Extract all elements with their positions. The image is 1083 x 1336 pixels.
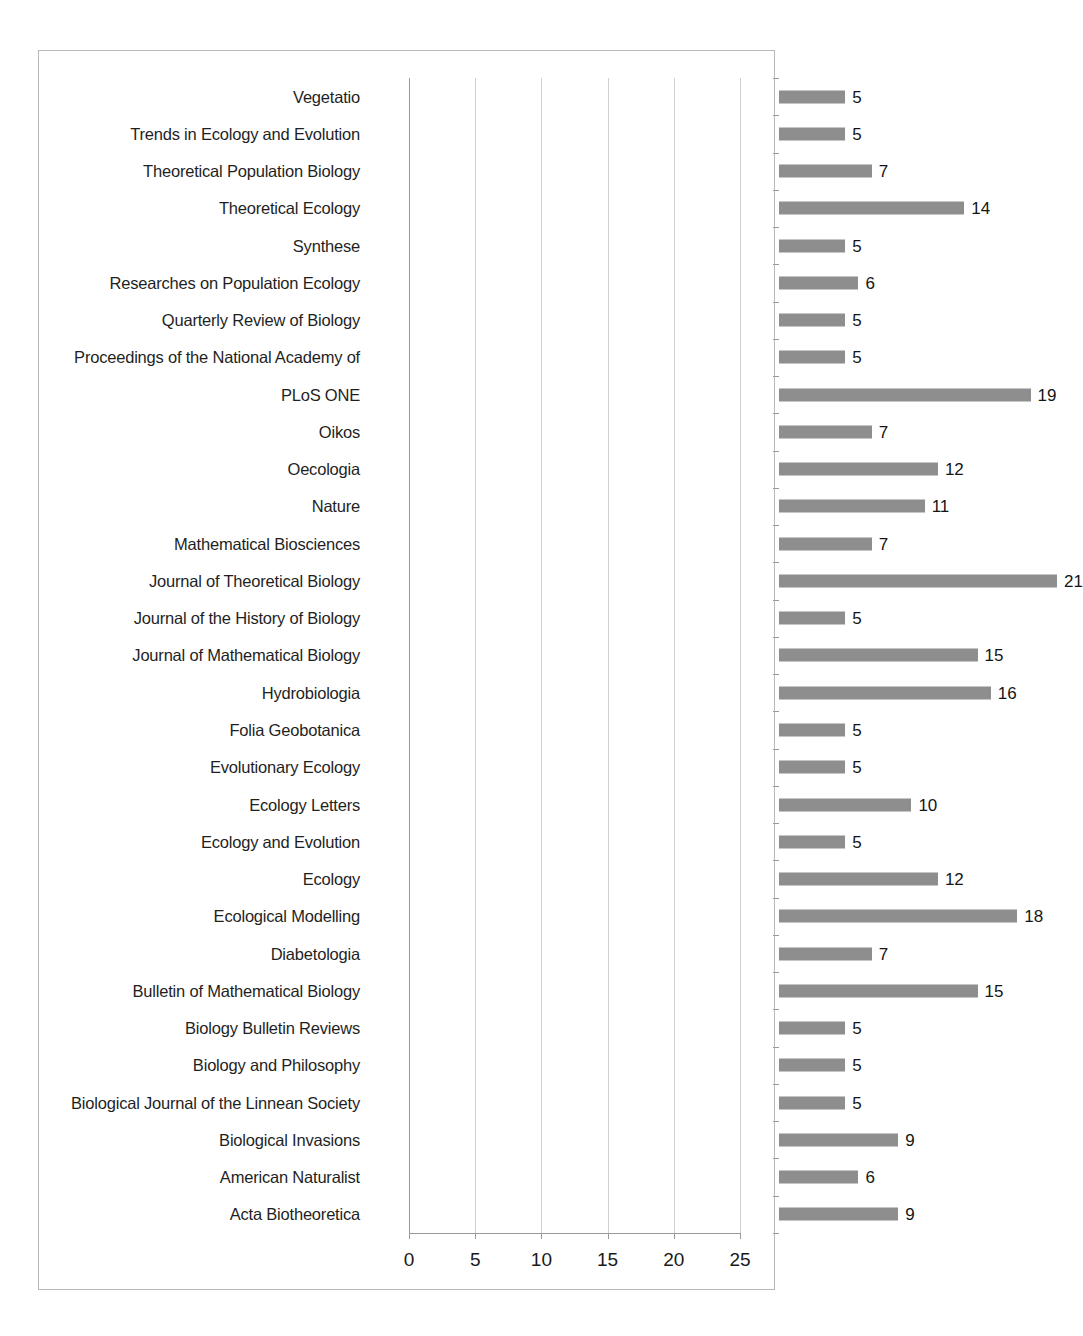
x-tick-mark-15 <box>608 1233 609 1239</box>
bar-container: 16 <box>779 686 1017 699</box>
bar-value-label: 19 <box>1038 386 1057 403</box>
bar-value-label: 5 <box>852 759 861 776</box>
category-tick-4 <box>773 227 779 228</box>
bar-row: Journal of Mathematical Biology15 <box>409 637 740 674</box>
category-tick-13 <box>773 562 779 563</box>
bar-container: 5 <box>779 239 862 252</box>
bar[interactable] <box>779 947 872 960</box>
category-label: Hydrobiologia <box>262 685 360 702</box>
bar-container: 5 <box>779 314 862 327</box>
bar-value-label: 5 <box>852 610 861 627</box>
bar-row: Ecology12 <box>409 860 740 897</box>
bar-value-label: 5 <box>852 312 861 329</box>
bar-row: Ecology Letters10 <box>409 786 740 823</box>
bar[interactable] <box>779 388 1031 401</box>
bar[interactable] <box>779 276 858 289</box>
category-label: Theoretical Ecology <box>219 200 360 217</box>
bar-container: 5 <box>779 90 862 103</box>
category-label: PLoS ONE <box>281 386 360 403</box>
bar-value-label: 7 <box>879 945 888 962</box>
category-label: Researches on Population Ecology <box>110 275 360 292</box>
bar-container: 5 <box>779 835 862 848</box>
bar-value-label: 6 <box>865 274 874 291</box>
category-label: Journal of the History of Biology <box>134 610 360 627</box>
bar-value-label: 18 <box>1024 908 1043 925</box>
bar-row: Biology Bulletin Reviews5 <box>409 1009 740 1046</box>
bar[interactable] <box>779 1171 858 1184</box>
bar-value-label: 12 <box>945 871 964 888</box>
category-tick-0 <box>773 78 779 79</box>
bar-row: Theoretical Ecology14 <box>409 190 740 227</box>
x-tick-label-10: 10 <box>531 1250 552 1269</box>
bar[interactable] <box>779 1133 898 1146</box>
x-tick-mark-0 <box>409 1233 410 1239</box>
chart-frame: Vegetatio5Trends in Ecology and Evolutio… <box>38 50 775 1290</box>
bar[interactable] <box>779 649 978 662</box>
bar-row: Theoretical Population Biology7 <box>409 153 740 190</box>
bar[interactable] <box>779 500 925 513</box>
bar-value-label: 7 <box>879 163 888 180</box>
bar-value-label: 9 <box>905 1206 914 1223</box>
bar-container: 7 <box>779 425 888 438</box>
bar-row: Biology and Philosophy5 <box>409 1047 740 1084</box>
category-tick-27 <box>773 1084 779 1085</box>
bar-row: Acta Biotheoretica9 <box>409 1196 740 1233</box>
bar-row: Biological Journal of the Linnean Societ… <box>409 1084 740 1121</box>
bar-container: 19 <box>779 388 1056 401</box>
x-tick-label-15: 15 <box>597 1250 618 1269</box>
bar[interactable] <box>779 612 845 625</box>
bar[interactable] <box>779 202 964 215</box>
bar-container: 9 <box>779 1133 915 1146</box>
bar[interactable] <box>779 463 938 476</box>
bar[interactable] <box>779 724 845 737</box>
bar[interactable] <box>779 910 1017 923</box>
category-label: Biological Invasions <box>219 1132 360 1149</box>
category-label: Synthese <box>293 237 360 254</box>
bar[interactable] <box>779 1208 898 1221</box>
bar[interactable] <box>779 537 872 550</box>
bar[interactable] <box>779 761 845 774</box>
bar[interactable] <box>779 1059 845 1072</box>
bar[interactable] <box>779 1022 845 1035</box>
bar-row: Proceedings of the National Academy of5 <box>409 339 740 376</box>
bar-container: 15 <box>779 984 1004 997</box>
bar[interactable] <box>779 574 1057 587</box>
bar-value-label: 5 <box>852 722 861 739</box>
category-label: Evolutionary Ecology <box>210 759 360 776</box>
bar-value-label: 10 <box>918 796 937 813</box>
bar[interactable] <box>779 239 845 252</box>
x-tick-label-0: 0 <box>404 1250 415 1269</box>
bar-container: 6 <box>779 276 875 289</box>
bar-container: 14 <box>779 202 990 215</box>
x-axis-line <box>409 1233 740 1234</box>
bar-container: 5 <box>779 1059 862 1072</box>
bar-value-label: 6 <box>865 1169 874 1186</box>
bar-container: 5 <box>779 724 862 737</box>
bar[interactable] <box>779 686 991 699</box>
bar[interactable] <box>779 984 978 997</box>
bar[interactable] <box>779 127 845 140</box>
bar[interactable] <box>779 835 845 848</box>
category-label: Ecological Modelling <box>214 908 360 925</box>
bar[interactable] <box>779 798 911 811</box>
bar-container: 11 <box>779 500 949 513</box>
bar[interactable] <box>779 165 872 178</box>
bar[interactable] <box>779 873 938 886</box>
bar-container: 10 <box>779 798 937 811</box>
category-tick-15 <box>773 637 779 638</box>
bar-row: Bulletin of Mathematical Biology15 <box>409 972 740 1009</box>
bar-row: Journal of the History of Biology5 <box>409 600 740 637</box>
bar-row: Quarterly Review of Biology5 <box>409 302 740 339</box>
bar[interactable] <box>779 314 845 327</box>
category-tick-30 <box>773 1196 779 1197</box>
x-tick-label-5: 5 <box>470 1250 481 1269</box>
bar-value-label: 14 <box>971 200 990 217</box>
category-label: Ecology Letters <box>249 796 360 813</box>
bar[interactable] <box>779 425 872 438</box>
bar[interactable] <box>779 90 845 103</box>
bar-container: 12 <box>779 873 964 886</box>
bar[interactable] <box>779 1096 845 1109</box>
bar-value-label: 15 <box>985 982 1004 999</box>
category-tick-25 <box>773 1009 779 1010</box>
bar[interactable] <box>779 351 845 364</box>
